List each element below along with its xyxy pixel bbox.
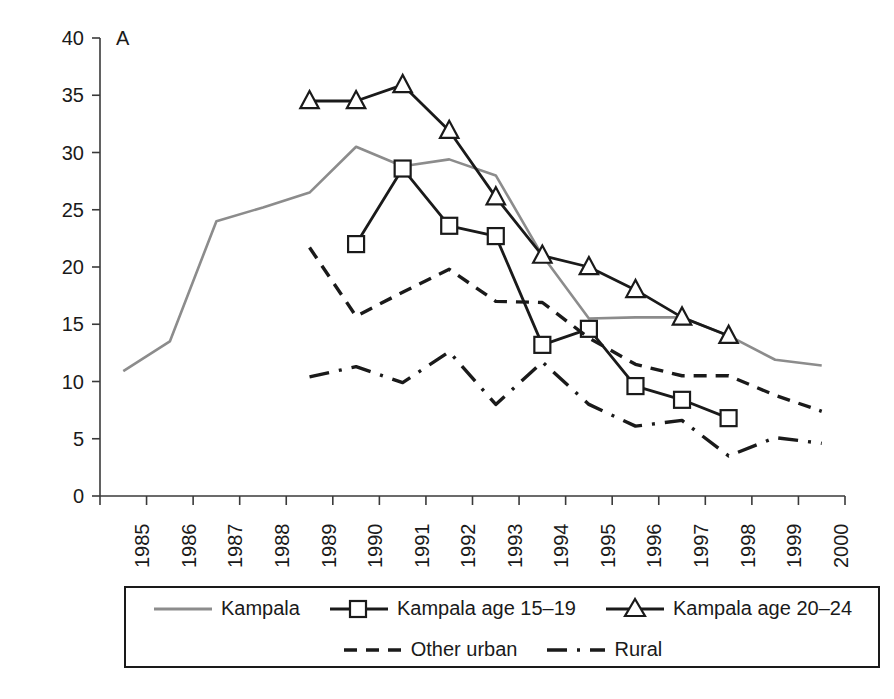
legend-label: Kampala age 20–24 [673,597,852,620]
series-marker-square [534,337,550,353]
legend-label: Kampala age 15–19 [397,597,576,620]
legend-swatch-square-icon [328,597,390,621]
series-marker-square [395,161,411,177]
legend-label: Kampala [221,597,300,620]
legend-item[interactable]: Kampala age 20–24 [604,597,852,621]
legend-row: Other urbanRural [126,629,878,670]
series-marker-square [674,392,690,408]
series-line [356,169,729,419]
legend-item[interactable]: Kampala [152,597,300,621]
legend-row: KampalaKampala age 15–19Kampala age 20–2… [126,588,878,629]
series-line [310,352,822,456]
series-marker-triangle [626,280,644,297]
legend-item[interactable]: Other urban [342,638,518,662]
legend-swatch-line-icon [152,597,214,621]
legend-label: Other urban [411,638,518,661]
series-marker-square [627,378,643,394]
series-marker-square [441,218,457,234]
series-marker-square [348,236,364,252]
legend-swatch-line-icon [545,638,607,662]
legend-marker-square [350,601,366,617]
series-marker-triangle [393,75,411,92]
chart-legend: KampalaKampala age 15–19Kampala age 20–2… [124,586,880,668]
legend-swatch-triangle-icon [604,597,666,621]
legend-marker-triangle [625,599,645,616]
legend-label: Rural [614,638,662,661]
series-line [310,85,729,336]
series-line [123,147,821,371]
legend-swatch-line-icon [342,638,404,662]
series-marker-triangle [673,307,691,324]
series-line [310,248,822,412]
legend-item[interactable]: Kampala age 15–19 [328,597,576,621]
legend-item[interactable]: Rural [545,638,662,662]
series-marker-square [488,228,504,244]
figure-panel-a: HIV prevalence (%) A 4035302520151050 19… [0,0,894,699]
series-marker-square [721,410,737,426]
